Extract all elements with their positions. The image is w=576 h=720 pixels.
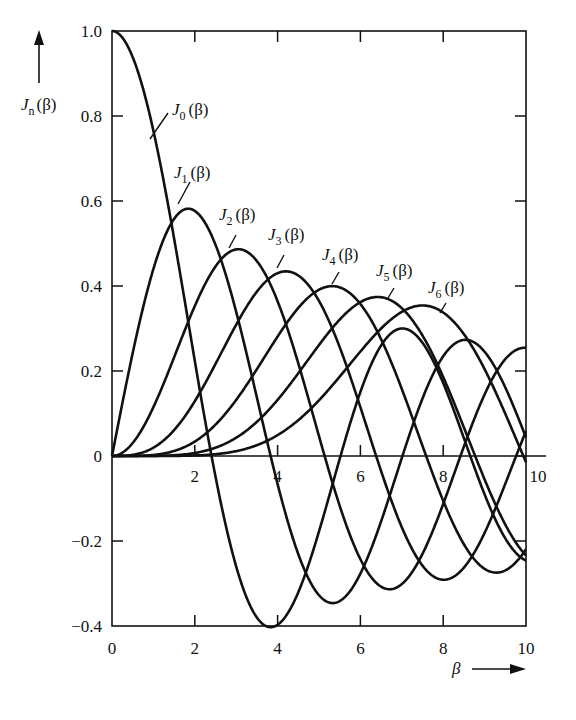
leader-line [388, 288, 394, 298]
leader-line [229, 235, 236, 248]
y-tick-label: 0.8 [81, 107, 102, 126]
curve-label: J4(β) [322, 245, 359, 268]
x-tick-label-bottom: 2 [191, 639, 200, 658]
x-tick-label-bottom: 6 [356, 639, 365, 658]
y-tick-label: −0.2 [71, 532, 102, 551]
x-tick-label-bottom: 0 [108, 639, 117, 658]
curve-j0 [112, 31, 526, 627]
plot-frame [112, 31, 526, 626]
axis-ticks [112, 31, 526, 626]
curve-label: J3(β) [268, 225, 305, 248]
curve-label: J1(β) [174, 163, 211, 186]
y-tick-label: −0.4 [71, 617, 102, 636]
x-tick-label-zero-line: 8 [439, 467, 448, 486]
x-tick-label-zero-line: 10 [530, 467, 547, 486]
x-tick-label-zero-line: 6 [356, 467, 365, 486]
y-tick-label: 0.4 [81, 277, 103, 296]
x-tick-label-bottom: 4 [273, 639, 282, 658]
y-label-sub: n [29, 104, 35, 118]
curve-label: J2(β) [219, 205, 256, 228]
svg-text:Jn(β): Jn(β) [21, 95, 57, 118]
x-label-text: β [451, 659, 461, 678]
bessel-chart: 0246810246810−0.4−0.200.20.40.60.81.0 J0… [0, 0, 576, 720]
y-tick-label: 0.2 [81, 362, 102, 381]
x-axis-label: β [451, 659, 526, 678]
curve-label-group: J0(β)J1(β)J2(β)J3(β)J4(β)J5(β)J6(β) [150, 100, 465, 313]
right-arrow-head-icon [510, 664, 526, 674]
leader-line [277, 255, 284, 268]
curve-label: J0(β) [172, 100, 209, 123]
y-tick-label: 0.6 [81, 192, 102, 211]
x-tick-label-bottom: 10 [518, 639, 535, 658]
y-axis-label: Jn(β) [21, 30, 57, 118]
x-tick-label-zero-line: 2 [191, 467, 200, 486]
leader-line [332, 272, 339, 284]
curve-label: J6(β) [428, 278, 465, 301]
y-tick-label: 1.0 [81, 22, 102, 41]
curve-label: J5(β) [376, 261, 413, 284]
y-tick-label: 0 [94, 447, 103, 466]
x-tick-label-bottom: 8 [439, 639, 448, 658]
y-label-arg: (β) [37, 95, 57, 114]
up-arrow-head-icon [34, 30, 44, 45]
curve-group [112, 31, 526, 627]
